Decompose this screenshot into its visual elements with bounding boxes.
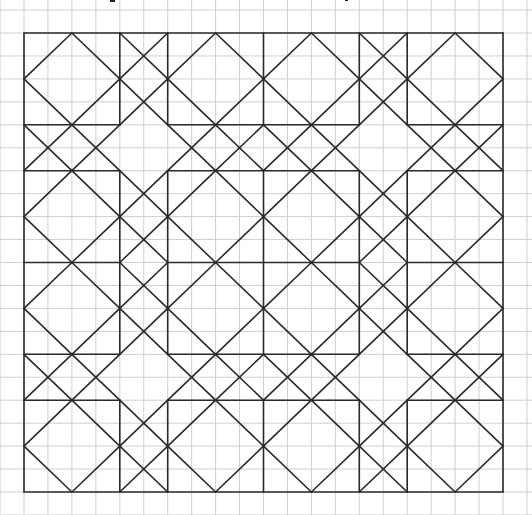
cropped-title-text (110, 0, 348, 2)
title-glyph-fragment (110, 0, 115, 2)
geometric-tile-pattern (24, 33, 503, 492)
quilt-pattern-diagram (0, 0, 532, 515)
title-glyph-fragment (345, 0, 348, 1)
